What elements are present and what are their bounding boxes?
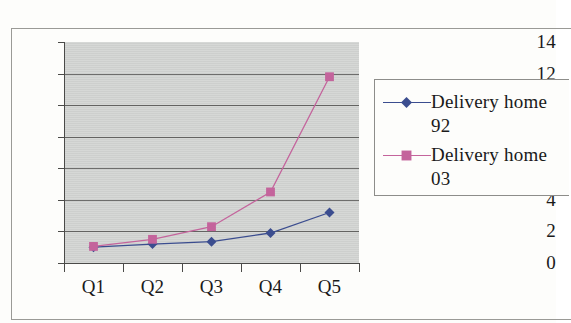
y-axis-tick-label: 2 <box>510 221 556 240</box>
data-point-marker <box>89 242 98 251</box>
legend-key-diamond-icon <box>383 92 431 114</box>
x-axis-tick-label: Q2 <box>123 277 183 297</box>
x-tick-mark <box>182 263 183 272</box>
square-marker-icon <box>401 150 412 161</box>
data-point-marker <box>325 72 334 81</box>
x-axis-tick-label: Q3 <box>182 277 242 297</box>
data-point-marker <box>148 235 157 244</box>
data-point-marker <box>325 207 335 217</box>
x-axis-tick-label: Q1 <box>64 277 124 297</box>
chart-series-layer <box>64 42 359 263</box>
data-point-marker <box>266 228 276 238</box>
x-tick-mark <box>241 263 242 272</box>
legend-label-delivery-home-92: Delivery home 92 <box>431 90 547 138</box>
diamond-marker-icon <box>401 97 412 108</box>
x-axis-tick-label: Q5 <box>300 277 360 297</box>
series-line-2 <box>94 77 330 247</box>
x-axis-line <box>64 263 360 264</box>
x-tick-mark <box>359 263 360 272</box>
x-tick-mark <box>64 263 65 272</box>
chart-legend: Delivery home 92 Delivery home 03 <box>374 79 569 196</box>
data-point-marker <box>266 188 275 197</box>
legend-key-square-icon <box>383 145 431 167</box>
y-axis-tick-label: 14 <box>510 32 556 51</box>
legend-item-delivery-home-03[interactable]: Delivery home 03 <box>383 143 568 191</box>
legend-label-delivery-home-03: Delivery home 03 <box>431 143 547 191</box>
data-point-marker <box>207 222 216 231</box>
y-axis-tick-label: 0 <box>510 253 556 272</box>
x-tick-mark <box>300 263 301 272</box>
legend-item-delivery-home-92[interactable]: Delivery home 92 <box>383 90 568 138</box>
data-point-marker <box>207 237 217 247</box>
x-tick-mark <box>123 263 124 272</box>
x-axis-tick-label: Q4 <box>241 277 301 297</box>
